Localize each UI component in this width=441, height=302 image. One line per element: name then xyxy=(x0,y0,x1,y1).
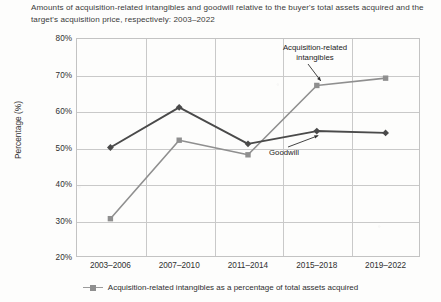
data-point-marker xyxy=(382,130,389,137)
data-point-marker xyxy=(177,138,182,143)
annotation-intangibles: Acquisition-related intangibles xyxy=(256,43,374,62)
x-tick-label: 2019–2022 xyxy=(351,261,420,270)
series-goodwill xyxy=(107,104,389,151)
annotation-intangibles-line1: Acquisition-related xyxy=(256,43,374,53)
series-acquisition-related-intangibles xyxy=(108,75,389,221)
annotation-goodwill: Goodwill xyxy=(269,148,299,158)
data-point-marker xyxy=(245,140,252,147)
data-point-marker xyxy=(383,75,388,80)
x-tick-label: 2003–2006 xyxy=(76,261,145,270)
line-chart: Amounts of acquisition-related intangibl… xyxy=(0,0,441,302)
legend-label: Acquisition-related intangibles as a per… xyxy=(108,283,358,292)
data-point-marker xyxy=(245,152,250,157)
data-point-marker xyxy=(313,128,320,135)
annotation-intangibles-line2: intangibles xyxy=(256,53,374,63)
data-point-marker xyxy=(314,83,319,88)
legend-marker-square-icon xyxy=(83,283,103,292)
chart-legend: Acquisition-related intangibles as a per… xyxy=(0,283,441,292)
x-tick-label: 2007–2010 xyxy=(145,261,214,270)
x-tick-label: 2015–2018 xyxy=(282,261,351,270)
x-tick-label: 2011–2014 xyxy=(214,261,283,270)
data-point-marker xyxy=(108,216,113,221)
annotation-goodwill-line1: Goodwill xyxy=(269,148,299,158)
series-layer xyxy=(0,0,441,302)
